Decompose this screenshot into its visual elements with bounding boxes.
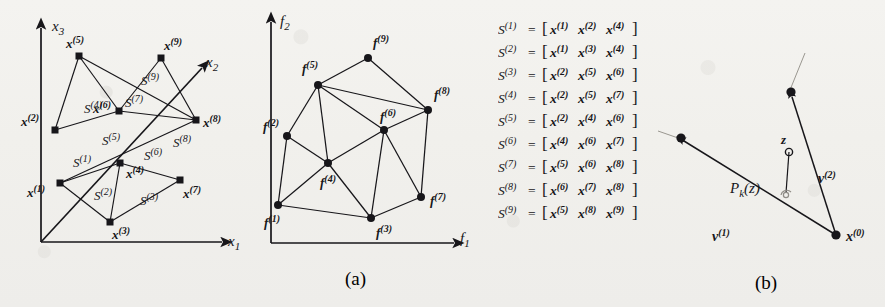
axis-label-f2: f2 [280, 13, 290, 32]
axis-label-x2: x2 [205, 54, 219, 73]
svg-text:x(5): x(5) [549, 204, 568, 221]
svg-text:]: ] [632, 19, 638, 38]
figure-page: x3 x1 x2 [0, 0, 885, 307]
label-S9: S(9) [141, 71, 160, 88]
caption-panel-b: (b) [755, 272, 777, 294]
svg-text:x(6): x(6) [577, 135, 596, 152]
point-x3 [107, 219, 114, 226]
label-x9: x(9) [163, 36, 182, 53]
point-x1 [57, 180, 64, 187]
svg-text:x(7): x(7) [605, 135, 624, 152]
point-x2 [52, 127, 59, 134]
svg-text:[: [ [542, 88, 548, 107]
svg-text:[: [ [542, 203, 548, 222]
objective-space-plot: f2 f1 [258, 0, 493, 270]
svg-text:=: = [528, 160, 536, 175]
label-f4: f(4) [320, 173, 336, 190]
svg-text:x(2): x(2) [577, 20, 596, 37]
label-x1: x(1) [26, 183, 45, 200]
svg-text:x(4): x(4) [605, 20, 624, 37]
svg-text:=: = [528, 45, 536, 60]
label-v2: v(2) [818, 169, 836, 186]
svg-text:x(1): x(1) [549, 43, 568, 60]
svg-text:]: ] [632, 203, 638, 222]
axis-label-x1: x1 [227, 233, 240, 252]
label-x4: x(4) [125, 164, 144, 181]
svg-text:S(5): S(5) [498, 112, 517, 129]
label-x5: x(5) [65, 34, 84, 51]
label-x8: x(8) [202, 113, 221, 130]
point-x7 [177, 177, 184, 184]
svg-text:=: = [528, 114, 536, 129]
point-x0 [831, 230, 840, 239]
label-f3: f(3) [376, 223, 392, 240]
svg-text:x(1): x(1) [549, 20, 568, 37]
svg-text:x(5): x(5) [577, 66, 596, 83]
svg-text:x(6): x(6) [605, 66, 624, 83]
svg-text:=: = [528, 183, 536, 198]
svg-text:S(8): S(8) [498, 181, 517, 198]
svg-text:x(5): x(5) [577, 89, 596, 106]
svg-text:x(6): x(6) [549, 181, 568, 198]
label-S8: S(8) [173, 133, 192, 150]
vector-v1-line [684, 141, 836, 235]
svg-text:]: ] [632, 134, 638, 153]
label-f8: f(8) [434, 85, 450, 102]
point-projection-foot [783, 192, 788, 197]
label-f5: f(5) [302, 59, 318, 76]
svg-text:[: [ [542, 42, 548, 61]
svg-text:x(9): x(9) [605, 204, 624, 221]
label-S7: S(7) [125, 93, 144, 110]
label-S1: S(1) [73, 153, 92, 170]
simplex-equation-row: S(3) = [ x(2) x(5) x(6) ] [498, 65, 638, 84]
svg-text:[: [ [542, 180, 548, 199]
label-v1: v(1) [712, 227, 730, 244]
svg-text:x(8): x(8) [605, 158, 624, 175]
point-f5 [314, 81, 322, 89]
axis-extension-lines [658, 53, 805, 139]
point-x4 [117, 160, 124, 167]
axis-label-f1: f1 [460, 230, 470, 249]
triangulation-vertices [274, 54, 432, 222]
svg-text:x(5): x(5) [549, 158, 568, 175]
svg-text:S(6): S(6) [498, 135, 517, 152]
svg-text:x(4): x(4) [577, 112, 596, 129]
svg-text:S(2): S(2) [498, 43, 517, 60]
svg-text:x(4): x(4) [605, 43, 624, 60]
label-S3: S(3) [140, 191, 159, 208]
svg-text:x(2): x(2) [549, 112, 568, 129]
point-x8 [193, 117, 200, 124]
svg-text:x(7): x(7) [577, 181, 596, 198]
label-f7: f(7) [430, 191, 446, 208]
simplex-equation-row: S(5) = [ x(2) x(4) x(6) ] [498, 111, 638, 130]
point-f9 [364, 54, 372, 62]
svg-text:x(4): x(4) [549, 135, 568, 152]
label-x0: x(0) [845, 227, 865, 244]
svg-text:=: = [528, 68, 536, 83]
svg-text:x(8): x(8) [577, 204, 596, 221]
svg-text:x(6): x(6) [605, 112, 624, 129]
svg-text:S(4): S(4) [498, 89, 517, 106]
simplex-equation-row: S(2) = [ x(1) x(3) x(4) ] [498, 42, 638, 61]
label-f1: f(1) [264, 213, 280, 230]
label-f6: f(6) [380, 107, 396, 124]
projection-segment [786, 152, 789, 193]
point-v2-tip [786, 87, 795, 96]
svg-text:=: = [528, 91, 536, 106]
svg-text:]: ] [632, 42, 638, 61]
svg-text:[: [ [542, 157, 548, 176]
label-z: z [780, 132, 787, 147]
simplex-equation-row: S(9) = [ x(5) x(8) x(9) ] [498, 203, 638, 222]
design-space-axes [41, 28, 222, 242]
svg-text:=: = [528, 206, 536, 221]
point-v1-tip [676, 133, 685, 142]
svg-text:]: ] [632, 88, 638, 107]
svg-text:S(1): S(1) [498, 20, 517, 37]
label-x2: x(2) [20, 112, 39, 129]
svg-text:[: [ [542, 65, 548, 84]
svg-text:x(6): x(6) [577, 158, 596, 175]
point-f1 [274, 201, 282, 209]
label-projection: Pk(z) [729, 180, 760, 199]
axis-label-x3: x3 [51, 18, 65, 37]
point-f8 [424, 106, 432, 114]
